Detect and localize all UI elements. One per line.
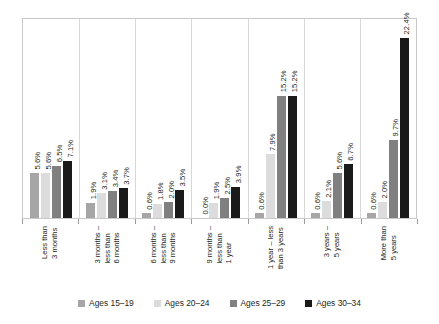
- bar[interactable]: [378, 202, 387, 218]
- bar-group: 5.6%5.6%6.5%7.1%: [23, 19, 79, 218]
- bar[interactable]: [344, 164, 353, 218]
- legend-item[interactable]: Ages 20–24: [154, 298, 210, 308]
- bar-slot: 1.8%: [153, 19, 162, 218]
- bar-slot: 3.7%: [119, 19, 128, 218]
- legend-swatch-icon: [154, 300, 161, 307]
- bar-value-label: 6.7%: [348, 143, 356, 161]
- bar-slot: 9.7%: [389, 19, 398, 218]
- bar[interactable]: [52, 166, 61, 218]
- bar[interactable]: [255, 213, 264, 218]
- bar-slot: 15.2%: [288, 19, 297, 218]
- bar-value-label: 3.7%: [123, 168, 131, 186]
- legend-label: Ages 20–24: [165, 298, 210, 308]
- bar[interactable]: [63, 161, 72, 218]
- x-axis-labels: Less than3 months3 months –less than6 mo…: [22, 224, 417, 292]
- x-axis-label-cell: 1 year – lessthan 3 years: [248, 224, 304, 292]
- bar-slot: 1.9%: [209, 19, 218, 218]
- bar[interactable]: [30, 173, 39, 218]
- legend-label: Ages 25–29: [241, 298, 286, 308]
- bar-slot: 3.5%: [175, 19, 184, 218]
- bar[interactable]: [142, 213, 151, 218]
- bar[interactable]: [209, 203, 218, 218]
- bar-slot: 6.5%: [52, 19, 61, 218]
- bar-value-label: 15.2%: [292, 71, 300, 93]
- bar[interactable]: [266, 154, 275, 218]
- bar[interactable]: [288, 96, 297, 218]
- bar-slot: 7.9%: [266, 19, 275, 218]
- x-axis-label-line: less than: [102, 226, 112, 264]
- bar[interactable]: [108, 191, 117, 218]
- x-axis-label: 3 months –less than6 months: [92, 226, 121, 264]
- bar-value-label: 22.4%: [404, 13, 412, 35]
- legend-swatch-icon: [305, 300, 312, 307]
- bar-slot: 0.6%: [142, 19, 151, 218]
- x-axis-label-line: than 3 years: [276, 226, 286, 269]
- bar-slot: 7.1%: [63, 19, 72, 218]
- bar-slot: 2.1%: [322, 19, 331, 218]
- x-axis-label-line: 3 months: [50, 226, 60, 259]
- bar-value-label: 7.1%: [67, 140, 75, 158]
- bar[interactable]: [322, 201, 331, 218]
- plot-area: 5.6%5.6%6.5%7.1%1.9%3.1%3.4%3.7%0.6%1.8%…: [22, 18, 417, 219]
- bar-groups: 5.6%5.6%6.5%7.1%1.9%3.1%3.4%3.7%0.6%1.8%…: [23, 19, 416, 218]
- x-axis-label-cell: 3 months –less than6 months: [78, 224, 134, 292]
- bar[interactable]: [153, 204, 162, 218]
- bar[interactable]: [400, 38, 409, 218]
- bar-value-label: 3.5%: [179, 169, 187, 187]
- x-axis-label: 9 months –less than1 year: [205, 226, 234, 264]
- bar-slot: 0.0%: [198, 19, 207, 218]
- legend-swatch-icon: [78, 300, 85, 307]
- bar[interactable]: [97, 193, 106, 218]
- bar[interactable]: [333, 173, 342, 218]
- bar[interactable]: [277, 96, 286, 218]
- bar[interactable]: [119, 188, 128, 218]
- bar-group: 0.6%7.9%15.2%15.2%: [248, 19, 304, 218]
- bar-slot: 5.6%: [30, 19, 39, 218]
- bar[interactable]: [311, 213, 320, 218]
- x-axis-label-cell: 6 months –less than9 months: [135, 224, 191, 292]
- bar[interactable]: [164, 202, 173, 218]
- legend-label: Ages 15–19: [89, 298, 134, 308]
- x-axis-label-line: More than: [379, 226, 389, 260]
- bar-slot: 15.2%: [277, 19, 286, 218]
- bar-slot: 2.0%: [378, 19, 387, 218]
- bar-slot: 5.6%: [41, 19, 50, 218]
- bar-slot: 0.6%: [367, 19, 376, 218]
- bar[interactable]: [41, 173, 50, 218]
- x-axis-label-line: 3 months –: [92, 226, 102, 264]
- legend-item[interactable]: Ages 30–34: [305, 298, 361, 308]
- x-axis-label: Less than3 months: [41, 226, 60, 259]
- x-axis-label-line: 1 year: [224, 226, 234, 264]
- x-axis-label-cell: More than5 years: [361, 224, 417, 292]
- legend-item[interactable]: Ages 15–19: [78, 298, 134, 308]
- bar[interactable]: [86, 203, 95, 218]
- x-axis-label-line: 5 years: [389, 226, 399, 260]
- bar-slot: 3.9%: [231, 19, 240, 218]
- x-axis-label-line: 3 years –: [323, 226, 333, 257]
- bar-slot: 3.4%: [108, 19, 117, 218]
- bar[interactable]: [367, 213, 376, 218]
- legend-item[interactable]: Ages 25–29: [230, 298, 286, 308]
- bar[interactable]: [175, 190, 184, 218]
- bar[interactable]: [231, 187, 240, 218]
- bar-group: 1.9%3.1%3.4%3.7%: [79, 19, 135, 218]
- bar[interactable]: [389, 140, 398, 218]
- bar-group: 0.6%2.0%9.7%22.4%: [360, 19, 416, 218]
- bar[interactable]: [220, 198, 229, 218]
- bar-value-label: 3.9%: [235, 166, 243, 184]
- bar-group: 0.6%1.8%2.0%3.5%: [135, 19, 191, 218]
- bar-slot: 2.0%: [164, 19, 173, 218]
- x-axis-label: More than5 years: [379, 226, 398, 260]
- bar-group: 0.6%2.1%5.6%6.7%: [304, 19, 360, 218]
- bar-slot: 0.6%: [255, 19, 264, 218]
- bar-slot: 6.7%: [344, 19, 353, 218]
- bar-group: 0.0%1.9%2.5%3.9%: [191, 19, 247, 218]
- bar-slot: 0.6%: [311, 19, 320, 218]
- x-axis-label: 6 months –less than9 months: [149, 226, 178, 264]
- axis-tick: [417, 219, 418, 224]
- x-axis-label: 1 year – lessthan 3 years: [266, 226, 285, 269]
- x-axis-label-cell: 9 months –less than1 year: [191, 224, 247, 292]
- chart-container: 5.6%5.6%6.5%7.1%1.9%3.1%3.4%3.7%0.6%1.8%…: [0, 0, 439, 324]
- x-axis-label-line: 6 months –: [149, 226, 159, 264]
- x-axis-label-cell: Less than3 months: [22, 224, 78, 292]
